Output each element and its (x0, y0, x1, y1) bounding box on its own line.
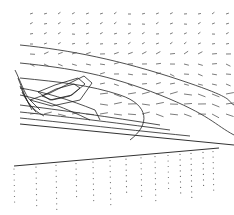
wall-lines (14, 124, 234, 166)
flow-figure (0, 0, 234, 215)
contour-lines (15, 45, 234, 140)
flow-field-plot (0, 0, 234, 215)
velocity-vectors (30, 12, 234, 118)
lower-velocity-dots (13, 151, 214, 210)
